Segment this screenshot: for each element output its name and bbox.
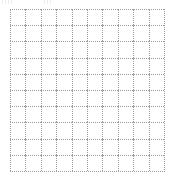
grid-cell <box>25 74 40 90</box>
grid-cell <box>41 25 56 41</box>
grid-cell <box>102 90 117 106</box>
grid-cell <box>72 155 87 171</box>
grid-cell <box>10 9 25 25</box>
grid-cell <box>56 139 71 155</box>
grid-cell <box>102 122 117 138</box>
grid-cell <box>87 25 102 41</box>
grid-cell <box>133 9 148 25</box>
grid-cell <box>25 41 40 57</box>
grid-cell <box>149 41 164 57</box>
grid-cell <box>41 139 56 155</box>
dotted-grid <box>10 9 165 172</box>
grid-cell <box>56 106 71 122</box>
grid-cell <box>25 90 40 106</box>
grid-cell <box>41 9 56 25</box>
grid-cell <box>72 106 87 122</box>
grid-cell <box>87 139 102 155</box>
grid-cell <box>56 9 71 25</box>
grid-cell <box>133 74 148 90</box>
grid-cell <box>56 74 71 90</box>
grid-cell <box>149 139 164 155</box>
grid-cell <box>118 90 133 106</box>
grid-cell <box>102 9 117 25</box>
grid-cell <box>72 25 87 41</box>
clipped-mark-center <box>44 0 52 4</box>
grid-cell <box>10 41 25 57</box>
grid-cell <box>25 58 40 74</box>
grid-cell <box>72 90 87 106</box>
grid-cell <box>10 25 25 41</box>
grid-cell <box>41 74 56 90</box>
grid-cell <box>102 74 117 90</box>
grid-cell <box>87 58 102 74</box>
grid-cell <box>102 155 117 171</box>
grid-cell <box>133 90 148 106</box>
grid-cell <box>133 106 148 122</box>
grid-cell <box>41 41 56 57</box>
grid-cell <box>118 58 133 74</box>
grid-cell <box>72 41 87 57</box>
grid-cell <box>41 122 56 138</box>
grid-cell <box>133 25 148 41</box>
grid-cell <box>25 122 40 138</box>
grid-cell <box>25 139 40 155</box>
grid-cell <box>118 25 133 41</box>
canvas <box>0 0 173 177</box>
grid-cell <box>41 155 56 171</box>
clipped-mark-left <box>2 0 14 4</box>
grid-cell <box>56 25 71 41</box>
grid-cell <box>149 25 164 41</box>
grid-cell <box>41 58 56 74</box>
grid-cell <box>149 90 164 106</box>
grid-cell <box>149 74 164 90</box>
grid-cell <box>87 106 102 122</box>
grid-cell <box>102 58 117 74</box>
grid-cell <box>149 155 164 171</box>
grid-cell <box>118 139 133 155</box>
grid-cell <box>102 25 117 41</box>
grid-cell <box>56 90 71 106</box>
grid-cell <box>118 9 133 25</box>
grid-cell <box>87 9 102 25</box>
grid-cell <box>133 41 148 57</box>
grid-cell <box>87 122 102 138</box>
grid-cell <box>56 122 71 138</box>
grid-cell <box>41 106 56 122</box>
grid-cell <box>72 74 87 90</box>
grid-cell <box>72 139 87 155</box>
grid-cell <box>41 90 56 106</box>
grid-cell <box>25 155 40 171</box>
grid-cell <box>118 74 133 90</box>
grid-cell <box>10 106 25 122</box>
grid-cell <box>87 74 102 90</box>
grid-cell <box>102 139 117 155</box>
grid-cell <box>10 74 25 90</box>
grid-cell <box>72 58 87 74</box>
grid-cell <box>118 122 133 138</box>
grid-cell <box>25 106 40 122</box>
grid-cell <box>56 58 71 74</box>
grid-cell <box>133 139 148 155</box>
grid-cell <box>56 41 71 57</box>
grid-cell <box>149 9 164 25</box>
grid-cell <box>133 58 148 74</box>
grid-cell <box>10 139 25 155</box>
grid-cell <box>87 41 102 57</box>
grid-cell <box>10 122 25 138</box>
grid-cell <box>10 155 25 171</box>
grid-cell <box>72 122 87 138</box>
grid-cell <box>149 106 164 122</box>
grid-cell <box>56 155 71 171</box>
grid-cell <box>133 122 148 138</box>
grid-cell <box>118 41 133 57</box>
grid-cell <box>87 155 102 171</box>
grid-cell <box>25 9 40 25</box>
grid-cell <box>102 41 117 57</box>
grid-cell <box>149 122 164 138</box>
grid-cell <box>118 106 133 122</box>
grid-cell <box>87 90 102 106</box>
grid-cell <box>133 155 148 171</box>
grid-cell <box>149 58 164 74</box>
grid-cell <box>25 25 40 41</box>
grid-cell <box>10 58 25 74</box>
